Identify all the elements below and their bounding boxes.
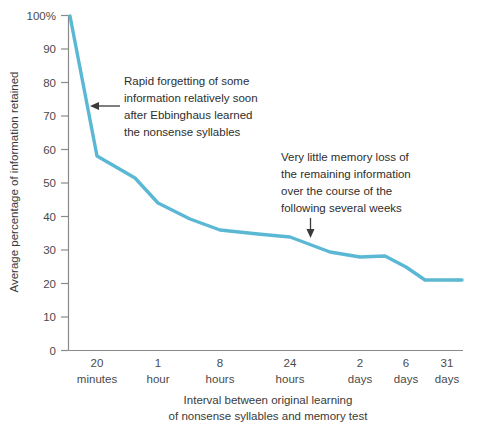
x-tick-label-2-days-value: 2 <box>357 357 363 369</box>
x-axis-tick-labels: 20 minutes 1 hour 8 hours 24 hours 2 day… <box>77 357 460 385</box>
x-tick-label-24-hours-value: 24 <box>284 357 297 369</box>
annotation-little-memory-loss-arrow <box>307 218 315 238</box>
x-axis-title-line2: of nonsense syllables and memory test <box>169 410 369 422</box>
annotation2-line3: over the course of the <box>281 185 392 197</box>
x-tick-label-8-hours-unit: hours <box>206 373 235 385</box>
annotation2-line4: following several weeks <box>281 202 402 214</box>
annotation2-line1: Very little memory loss of <box>281 151 410 163</box>
x-tick-label-6-days-value: 6 <box>403 357 409 369</box>
annotation2-line2: the remaining information <box>281 168 411 180</box>
y-tick-label-30: 30 <box>43 244 56 256</box>
y-tick-label-60: 60 <box>43 144 56 156</box>
y-tick-label-80: 80 <box>43 77 56 89</box>
x-tick-label-24-hours-unit: hours <box>276 373 305 385</box>
annotation-rapid-forgetting-arrow <box>90 102 120 110</box>
annotation-rapid-forgetting-text: Rapid forgetting of some information rel… <box>124 75 258 138</box>
forgetting-curve-chart: 0 10 20 30 40 50 60 70 80 90 100% 20 min… <box>0 0 480 435</box>
x-axis-title-line1: Interval between original learning <box>184 394 353 406</box>
y-tick-label-20: 20 <box>43 278 56 290</box>
x-tick-label-20-minutes-value: 20 <box>91 357 104 369</box>
y-tick-label-10: 10 <box>43 311 56 323</box>
x-tick-label-31-days-value: 31 <box>441 357 454 369</box>
annotation1-line4: the nonsense syllables <box>124 126 241 138</box>
y-tick-label-70: 70 <box>43 110 56 122</box>
chart-canvas: 0 10 20 30 40 50 60 70 80 90 100% 20 min… <box>0 0 480 435</box>
y-tick-label-100: 100% <box>27 10 56 22</box>
y-axis-ticks <box>61 16 69 351</box>
annotation-little-memory-loss-text: Very little memory loss of the remaining… <box>281 151 411 214</box>
x-tick-label-2-days-unit: days <box>348 373 373 385</box>
y-tick-label-0: 0 <box>50 345 56 357</box>
y-axis-tick-labels: 0 10 20 30 40 50 60 70 80 90 100% <box>27 10 56 357</box>
x-tick-label-31-days-unit: days <box>435 373 460 385</box>
y-axis-title: Average percentage of information retain… <box>8 72 20 293</box>
annotation1-line3: after Ebbinghaus learned <box>124 109 253 121</box>
x-tick-label-8-hours-value: 8 <box>217 357 223 369</box>
x-tick-label-6-days-unit: days <box>394 373 419 385</box>
y-tick-label-90: 90 <box>43 43 56 55</box>
forgetting-curve-line <box>70 16 462 280</box>
y-tick-label-40: 40 <box>43 211 56 223</box>
x-tick-label-1-hour-unit: hour <box>146 373 169 385</box>
annotation1-line1: Rapid forgetting of some <box>124 75 249 87</box>
annotation1-line2: information relatively soon <box>124 92 258 104</box>
x-tick-label-20-minutes-unit: minutes <box>77 373 118 385</box>
y-tick-label-50: 50 <box>43 177 56 189</box>
x-tick-label-1-hour-value: 1 <box>155 357 161 369</box>
